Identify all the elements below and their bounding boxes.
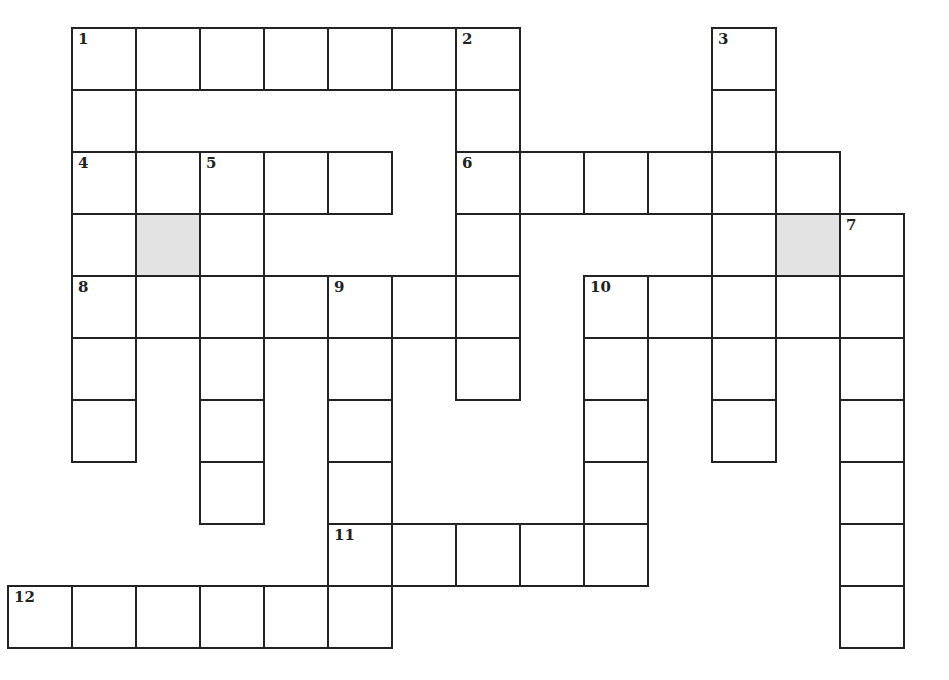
- crossword-cell[interactable]: [711, 337, 777, 401]
- crossword-cell[interactable]: [391, 27, 457, 91]
- crossword-cell[interactable]: [839, 275, 905, 339]
- crossword-cell[interactable]: [455, 89, 521, 153]
- crossword-cell[interactable]: [839, 399, 905, 463]
- crossword-cell[interactable]: [583, 523, 649, 587]
- crossword-cell[interactable]: [455, 275, 521, 339]
- crossword-grid: 123456789101112: [0, 0, 949, 680]
- crossword-cell[interactable]: [71, 213, 137, 277]
- clue-number: 7: [846, 216, 856, 234]
- crossword-cell[interactable]: [455, 213, 521, 277]
- crossword-cell[interactable]: [711, 89, 777, 153]
- crossword-cell[interactable]: 12: [7, 585, 73, 649]
- crossword-cell[interactable]: [647, 275, 713, 339]
- clue-number: 6: [462, 154, 472, 172]
- crossword-cell[interactable]: [519, 523, 585, 587]
- clue-number: 12: [14, 588, 35, 606]
- crossword-cell[interactable]: [327, 27, 393, 91]
- crossword-cell[interactable]: [327, 337, 393, 401]
- crossword-cell[interactable]: [327, 585, 393, 649]
- crossword-cell[interactable]: [775, 151, 841, 215]
- crossword-cell[interactable]: [455, 523, 521, 587]
- crossword-cell[interactable]: [583, 461, 649, 525]
- crossword-cell[interactable]: 11: [327, 523, 393, 587]
- crossword-cell[interactable]: [199, 275, 265, 339]
- crossword-cell[interactable]: [71, 585, 137, 649]
- crossword-cell[interactable]: [583, 337, 649, 401]
- clue-number: 1: [78, 30, 88, 48]
- crossword-cell[interactable]: [71, 89, 137, 153]
- crossword-cell[interactable]: [647, 151, 713, 215]
- clue-number: 5: [206, 154, 216, 172]
- crossword-cell[interactable]: [327, 461, 393, 525]
- crossword-cell[interactable]: 6: [455, 151, 521, 215]
- crossword-cell[interactable]: [199, 461, 265, 525]
- crossword-cell[interactable]: [711, 399, 777, 463]
- crossword-cell[interactable]: 9: [327, 275, 393, 339]
- crossword-cell[interactable]: [711, 151, 777, 215]
- crossword-cell[interactable]: [455, 337, 521, 401]
- crossword-cell-shaded[interactable]: [135, 213, 201, 277]
- crossword-cell[interactable]: [711, 213, 777, 277]
- crossword-cell[interactable]: [327, 399, 393, 463]
- crossword-cell[interactable]: [135, 275, 201, 339]
- clue-number: 10: [590, 278, 611, 296]
- crossword-cell[interactable]: [839, 585, 905, 649]
- crossword-cell[interactable]: [583, 399, 649, 463]
- crossword-cell[interactable]: [391, 275, 457, 339]
- crossword-cell[interactable]: [199, 337, 265, 401]
- crossword-cell[interactable]: [839, 523, 905, 587]
- crossword-cell[interactable]: 1: [71, 27, 137, 91]
- clue-number: 3: [718, 30, 728, 48]
- crossword-cell[interactable]: [135, 27, 201, 91]
- crossword-cell[interactable]: [839, 337, 905, 401]
- crossword-cell[interactable]: [199, 27, 265, 91]
- crossword-cell[interactable]: [839, 461, 905, 525]
- clue-number: 11: [334, 526, 355, 544]
- crossword-cell[interactable]: [263, 585, 329, 649]
- crossword-cell[interactable]: [263, 275, 329, 339]
- crossword-cell-shaded[interactable]: [775, 213, 841, 277]
- crossword-cell[interactable]: [263, 27, 329, 91]
- crossword-cell[interactable]: [391, 523, 457, 587]
- crossword-cell[interactable]: 4: [71, 151, 137, 215]
- crossword-cell[interactable]: 7: [839, 213, 905, 277]
- crossword-cell[interactable]: [775, 275, 841, 339]
- crossword-cell[interactable]: [71, 399, 137, 463]
- crossword-cell[interactable]: [583, 151, 649, 215]
- crossword-cell[interactable]: [199, 399, 265, 463]
- clue-number: 4: [78, 154, 88, 172]
- crossword-cell[interactable]: 8: [71, 275, 137, 339]
- crossword-cell[interactable]: [71, 337, 137, 401]
- crossword-cell[interactable]: [199, 213, 265, 277]
- clue-number: 9: [334, 278, 344, 296]
- crossword-cell[interactable]: [135, 151, 201, 215]
- crossword-cell[interactable]: 2: [455, 27, 521, 91]
- clue-number: 2: [462, 30, 472, 48]
- crossword-cell[interactable]: [263, 151, 329, 215]
- clue-number: 8: [78, 278, 88, 296]
- crossword-cell[interactable]: [199, 585, 265, 649]
- crossword-cell[interactable]: [711, 275, 777, 339]
- crossword-cell[interactable]: 10: [583, 275, 649, 339]
- crossword-cell[interactable]: [135, 585, 201, 649]
- crossword-cell[interactable]: [327, 151, 393, 215]
- crossword-cell[interactable]: [519, 151, 585, 215]
- crossword-cell[interactable]: 3: [711, 27, 777, 91]
- crossword-cell[interactable]: 5: [199, 151, 265, 215]
